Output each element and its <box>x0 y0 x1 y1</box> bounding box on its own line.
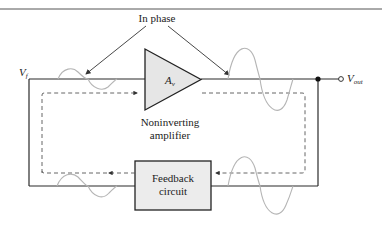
input-voltage-label: Vf <box>19 66 29 80</box>
output-terminal <box>339 77 344 82</box>
dashed-loop-right <box>202 93 305 173</box>
feedback-label-line2: circuit <box>159 185 187 197</box>
junction-dot <box>315 76 320 81</box>
output-voltage-label: Vout <box>347 72 364 86</box>
in-phase-label: In phase <box>139 12 176 24</box>
amplifier-caption-line2: amplifier <box>150 129 191 141</box>
dashed-loop-bottom <box>42 171 135 173</box>
amplifier-caption-line1: Noninverting <box>141 116 200 128</box>
dashed-loop-left <box>42 93 135 173</box>
feedback-label-line1: Feedback <box>152 172 195 184</box>
in-phase-pointer-left <box>86 26 146 74</box>
positive-feedback-diagram: In phase Av Noninverting amplifier Feedb… <box>0 0 382 227</box>
